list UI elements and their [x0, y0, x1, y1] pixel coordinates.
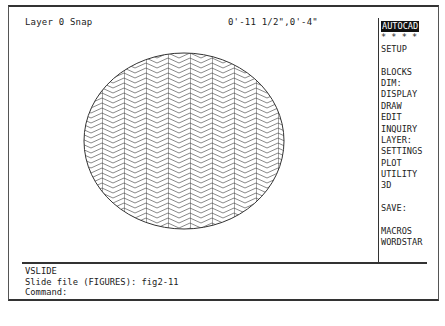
command-history-line: Slide file (FIGURES): fig2-11 — [25, 277, 179, 288]
menu-item-separator[interactable]: * * * * — [381, 32, 439, 43]
menu-item-blocks[interactable]: BLOCKS — [381, 67, 439, 78]
menu-item-3d[interactable]: 3D — [381, 180, 439, 191]
screen-menu-divider — [378, 18, 379, 262]
screen-menu: AUTOCAD * * * * SETUP BLOCKS DIM: DISPLA… — [381, 21, 439, 249]
hatched-ellipse — [80, 48, 370, 258]
menu-item-utility[interactable]: UTILITY — [381, 169, 439, 180]
command-history-line: VSLIDE — [25, 266, 179, 277]
menu-item-layer[interactable]: LAYER: — [381, 135, 439, 146]
menu-item-display[interactable]: DISPLAY — [381, 89, 439, 100]
cursor-coordinates: 0'-11 1/2",0'-4" — [228, 17, 318, 27]
menu-item-draw[interactable]: DRAW — [381, 101, 439, 112]
command-area[interactable]: VSLIDE Slide file (FIGURES): fig2-11 Com… — [25, 266, 179, 298]
menu-item-autocad[interactable]: AUTOCAD — [381, 21, 419, 32]
drawing-area[interactable] — [80, 48, 370, 258]
menu-gap — [381, 192, 439, 203]
command-prompt[interactable]: Command: — [25, 287, 179, 298]
menu-item-inquiry[interactable]: INQUIRY — [381, 124, 439, 135]
menu-item-plot[interactable]: PLOT — [381, 158, 439, 169]
menu-item-edit[interactable]: EDIT — [381, 112, 439, 123]
menu-item-macros[interactable]: MACROS — [381, 226, 439, 237]
layer-snap-status: Layer 0 Snap — [25, 17, 92, 27]
menu-item-dim[interactable]: DIM: — [381, 78, 439, 89]
menu-item-setup[interactable]: SETUP — [381, 44, 439, 55]
command-area-divider — [22, 262, 427, 264]
menu-item-save[interactable]: SAVE: — [381, 203, 439, 214]
menu-item-wordstar[interactable]: WORDSTAR — [381, 237, 439, 248]
menu-item-settings[interactable]: SETTINGS — [381, 146, 439, 157]
menu-gap — [381, 215, 439, 226]
menu-gap — [381, 55, 439, 66]
